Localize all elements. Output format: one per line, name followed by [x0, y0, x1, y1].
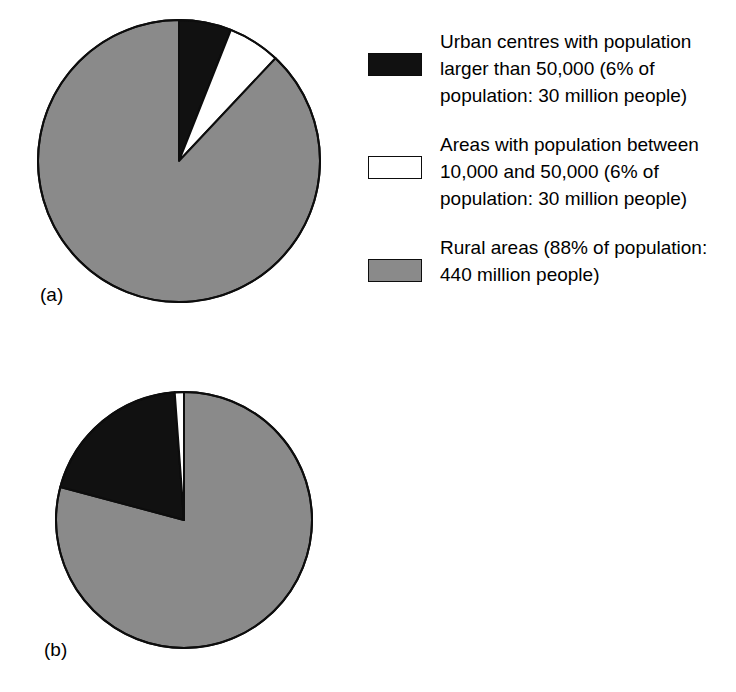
legend-a: Urban centres with population larger tha… — [368, 28, 736, 310]
panel-a-label: (a) — [40, 285, 63, 304]
legend-item-label: Rural areas (88% of population: 440 mill… — [440, 234, 707, 288]
legend-item[interactable]: Areas with population between 10,000 and… — [368, 131, 736, 212]
legend-item[interactable]: Urban centres with population larger tha… — [368, 28, 736, 109]
panel-b: (b) Agricultural workers (205 million) N… — [0, 345, 736, 692]
legend-item-label: Urban centres with population larger tha… — [440, 28, 691, 109]
pie-chart-a — [36, 18, 322, 304]
pie-slice — [38, 20, 320, 302]
legend-swatch-white — [368, 156, 422, 179]
pie-chart-b — [54, 390, 314, 650]
figure-two-pie-charts: (a) Urban centres with population larger… — [0, 0, 736, 692]
swatch-cell — [368, 28, 440, 76]
legend-swatch-black — [368, 53, 422, 76]
panel-b-label: (b) — [44, 640, 67, 659]
legend-item-label: Areas with population between 10,000 and… — [440, 131, 699, 212]
legend-swatch-gray — [368, 259, 422, 282]
legend-item[interactable]: Rural areas (88% of population: 440 mill… — [368, 234, 736, 288]
pie-b-svg — [54, 390, 314, 650]
swatch-cell — [368, 234, 440, 282]
pie-a-svg — [36, 18, 322, 304]
panel-a: (a) Urban centres with population larger… — [0, 0, 736, 345]
swatch-cell — [368, 131, 440, 179]
